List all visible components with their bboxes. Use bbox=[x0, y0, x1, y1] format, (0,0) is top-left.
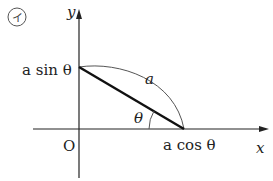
y-axis bbox=[76, 9, 82, 178]
angle-arc bbox=[149, 111, 154, 129]
origin-label: O bbox=[63, 137, 75, 155]
y-axis-arrow-icon bbox=[76, 9, 82, 19]
segment-a bbox=[79, 67, 184, 129]
segment-length-label: a bbox=[145, 70, 154, 88]
y-intercept-label: a sin θ bbox=[22, 61, 72, 79]
x-axis bbox=[33, 126, 269, 132]
y-axis-label: y bbox=[66, 3, 76, 21]
x-intercept-label: a cos θ bbox=[163, 136, 216, 154]
circled-marker: イ bbox=[8, 8, 26, 26]
x-axis-arrow-icon bbox=[259, 126, 269, 132]
x-axis-label: x bbox=[256, 139, 265, 157]
diagram-canvas: イ y a sin θ a θ O a cos θ x bbox=[0, 0, 273, 181]
angle-label: θ bbox=[134, 109, 143, 127]
marker-text: イ bbox=[12, 12, 23, 25]
